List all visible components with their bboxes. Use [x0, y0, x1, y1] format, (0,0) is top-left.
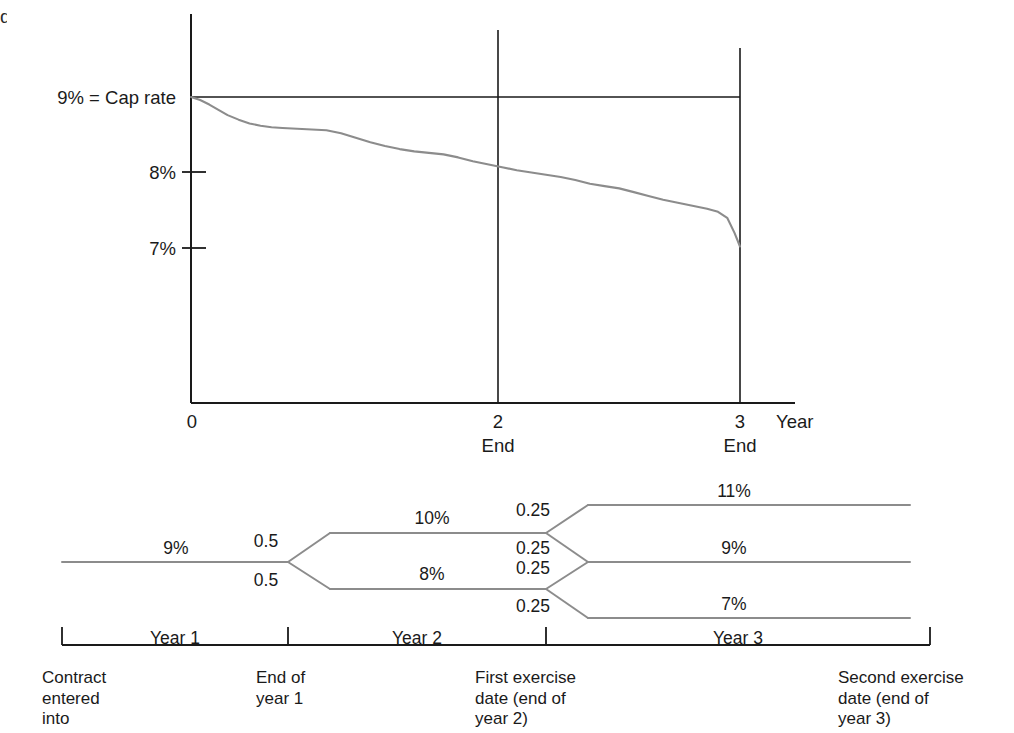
timeline-event-contract-line-3: into — [42, 709, 106, 730]
tree-prob-2a-up: 0.25 — [516, 500, 550, 521]
figure-root: d 9% = Cap rate 8% 7% 0 2 End 3 End Year — [0, 0, 1014, 733]
timeline-event-first-exercise-line-3: year 2) — [475, 709, 576, 730]
timeline-event-second-exercise-line-2: date (end of — [838, 689, 964, 710]
timeline-event-end-year-1: End of year 1 — [256, 668, 305, 709]
tree-rate-11pct: 11% — [717, 481, 751, 502]
timeline-period-year-3: Year 3 — [713, 628, 763, 649]
timeline-event-end-year-1-line-2: year 1 — [256, 689, 305, 710]
tree-prob-2b-up: 0.25 — [516, 558, 550, 579]
timeline-event-end-year-1-line-1: End of — [256, 668, 305, 689]
timeline-event-first-exercise: First exercise date (end of year 2) — [475, 668, 576, 730]
tree-branch-up-1 — [288, 533, 330, 562]
tree-rate-9pct-upper: 9% — [721, 538, 746, 559]
timeline-period-year-2: Year 2 — [392, 628, 442, 649]
timeline-period-year-1: Year 1 — [150, 628, 200, 649]
tree-branch-up-2b — [546, 562, 588, 589]
timeline-event-first-exercise-line-2: date (end of — [475, 689, 576, 710]
timeline-event-contract-line-2: entered — [42, 689, 106, 710]
tree-rate-10pct: 10% — [414, 508, 449, 529]
tree-prob-up-1: 0.5 — [254, 531, 278, 552]
tree-prob-down-1: 0.5 — [254, 570, 278, 591]
tree-rate-7pct: 7% — [721, 594, 746, 615]
timeline-event-second-exercise-line-3: year 3) — [838, 709, 964, 730]
binomial-tree — [0, 0, 1014, 733]
tree-rate-8pct: 8% — [419, 564, 444, 585]
timeline-event-first-exercise-line-1: First exercise — [475, 668, 576, 689]
timeline-event-contract: Contract entered into — [42, 668, 106, 730]
timeline-event-second-exercise: Second exercise date (end of year 3) — [838, 668, 964, 730]
tree-branch-down-2a — [546, 533, 588, 562]
tree-branch-down-2b — [546, 589, 588, 618]
timeline-event-second-exercise-line-1: Second exercise — [838, 668, 964, 689]
tree-branch-up-2a — [546, 505, 588, 533]
tree-prob-2a-down: 0.25 — [516, 538, 550, 559]
timeline-event-contract-line-1: Contract — [42, 668, 106, 689]
tree-branch-down-1 — [288, 562, 330, 589]
tree-label-root-rate: 9% — [163, 538, 188, 559]
tree-prob-2b-down: 0.25 — [516, 596, 550, 617]
